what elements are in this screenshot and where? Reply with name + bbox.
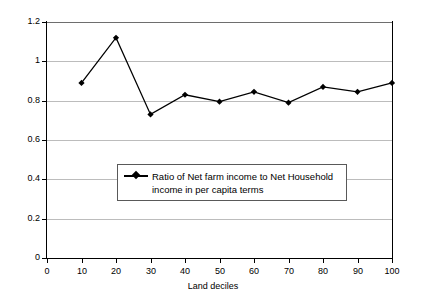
x-tick-label: 80 — [303, 266, 343, 276]
y-gridline — [47, 101, 392, 102]
y-gridline — [47, 61, 392, 62]
y-tick-label: 0 — [4, 253, 40, 262]
x-tick-mark — [47, 258, 48, 263]
data-point-marker — [147, 111, 153, 117]
data-point-marker — [182, 92, 188, 98]
y-tick: 0 — [0, 253, 40, 262]
data-series-layer — [0, 0, 426, 305]
y-tick-label: 1.2 — [4, 17, 40, 26]
data-point-marker — [320, 84, 326, 90]
y-tick: 0.8 — [0, 96, 40, 105]
x-tick-mark — [254, 258, 255, 263]
y-gridline — [47, 22, 392, 23]
x-tick-mark — [151, 258, 152, 263]
legend-entry-line2: income in per capita terms — [152, 184, 263, 195]
chart-legend: Ratio of Net farm income to Net Househol… — [117, 164, 347, 201]
y-tick: 1.2 — [0, 17, 40, 26]
y-tick-label: 1 — [4, 56, 40, 65]
x-tick-label: 40 — [165, 266, 205, 276]
data-point-marker — [113, 35, 119, 41]
x-tick-mark — [392, 258, 393, 263]
x-tick-mark — [323, 258, 324, 263]
x-tick-label: 20 — [96, 266, 136, 276]
y-gridline — [47, 219, 392, 220]
y-tick-label: 0.2 — [4, 214, 40, 223]
y-axis-line — [46, 21, 47, 259]
data-point-marker — [251, 89, 257, 95]
series-markers-ratio — [78, 35, 395, 118]
legend-entry-label: Ratio of Net farm income to Net Househol… — [152, 170, 333, 196]
y-tick: 0.4 — [0, 174, 40, 183]
legend-series-marker-icon — [124, 170, 148, 182]
chart-container: 00.20.40.60.811.2 0102030405060708090100… — [0, 0, 426, 305]
y-tick: 0.2 — [0, 214, 40, 223]
data-point-marker — [78, 80, 84, 86]
y-tick: 1 — [0, 56, 40, 65]
x-tick-mark — [82, 258, 83, 263]
y-tick-label: 0.4 — [4, 174, 40, 183]
x-tick-mark — [289, 258, 290, 263]
plot-right-border — [392, 21, 393, 259]
legend-entry-line1: Ratio of Net farm income to Net Househol… — [152, 171, 333, 182]
x-tick-mark — [116, 258, 117, 263]
y-tick: 0.6 — [0, 135, 40, 144]
y-tick-label: 0.6 — [4, 135, 40, 144]
x-tick-mark — [358, 258, 359, 263]
x-tick-mark — [220, 258, 221, 263]
x-axis-title: Land deciles — [0, 281, 426, 292]
x-tick-label: 60 — [234, 266, 274, 276]
y-gridline — [47, 140, 392, 141]
y-tick-label: 0.8 — [4, 96, 40, 105]
data-point-marker — [354, 89, 360, 95]
x-tick-label: 0 — [27, 266, 67, 276]
x-tick-label: 100 — [372, 266, 412, 276]
x-tick-mark — [185, 258, 186, 263]
series-line-ratio — [82, 38, 393, 115]
